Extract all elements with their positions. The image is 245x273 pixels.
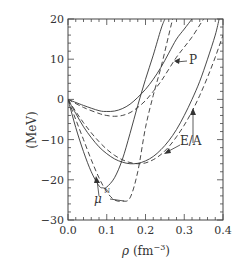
annotation-ea: E/A — [164, 108, 202, 154]
x-tick-label: 0.4 — [214, 224, 232, 237]
label-mu: μ — [94, 192, 102, 206]
x-tick-label: 0.1 — [98, 224, 116, 237]
annotation-p: P — [174, 53, 197, 67]
line-chart: 20100−10−20−30 0.00.10.20.30.4 (MeV) ρ (… — [0, 0, 245, 273]
y-axis-label: (MeV) — [25, 111, 39, 148]
label-ea: E/A — [180, 134, 202, 148]
series-line — [68, 19, 204, 116]
chart-container: 20100−10−20−30 0.00.10.20.30.4 (MeV) ρ (… — [0, 0, 245, 273]
y-tick-label: 20 — [50, 13, 64, 26]
label-p: P — [189, 53, 197, 67]
x-axis-label: ρ (fm−3) — [121, 243, 170, 258]
axis-ticks — [68, 19, 223, 220]
plot-frame — [68, 19, 223, 220]
series-line — [68, 19, 192, 111]
x-tick-label: 0.0 — [59, 224, 77, 237]
series-line — [68, 19, 165, 188]
y-tick-label: −10 — [41, 134, 64, 147]
x-tick-labels: 0.00.10.20.30.4 — [59, 224, 232, 237]
y-tick-label: −20 — [41, 174, 64, 187]
series-line — [68, 19, 173, 201]
plot-curves — [68, 19, 223, 201]
y-tick-labels: 20100−10−20−30 — [41, 13, 64, 227]
y-tick-label: 0 — [57, 93, 64, 106]
label-mu-superscript: N — [104, 187, 110, 195]
x-tick-label: 0.3 — [176, 224, 194, 237]
y-tick-label: 10 — [50, 53, 64, 66]
x-tick-label: 0.2 — [137, 224, 155, 237]
